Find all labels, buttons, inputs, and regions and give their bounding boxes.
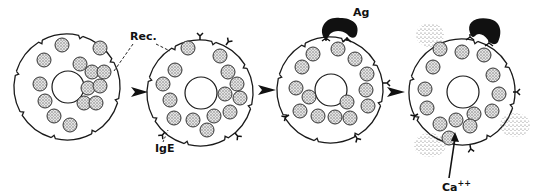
granule [73, 57, 87, 71]
ige-antibody-shape [513, 89, 520, 95]
ige-antibody [197, 33, 203, 40]
ige-label: IgE [155, 142, 174, 155]
granule [156, 77, 170, 91]
granule [89, 96, 103, 110]
granule [47, 109, 61, 123]
granule [63, 118, 77, 132]
granule [223, 105, 237, 119]
granule [207, 109, 221, 123]
ige-antibody [322, 38, 330, 41]
cell-stage-4 [409, 39, 515, 145]
granule [359, 83, 373, 97]
granule [163, 93, 177, 107]
granule [348, 52, 362, 66]
granule [340, 95, 354, 109]
ige-antibody-shape [233, 131, 242, 140]
receptor-annotation: Rec. [114, 30, 170, 71]
granule [492, 87, 506, 101]
ige-antibody [224, 38, 233, 47]
granule [289, 81, 303, 95]
granule [293, 104, 307, 118]
ige-antibody-shape [383, 80, 390, 86]
granule [295, 60, 309, 74]
granule [302, 90, 316, 104]
ige-antibody-shape [467, 144, 474, 152]
released-granule-contents [500, 113, 530, 137]
nucleus [447, 76, 479, 108]
granule [38, 94, 52, 108]
granule [218, 87, 232, 101]
granule [486, 68, 500, 82]
receptor-label: Rec. [130, 30, 157, 43]
ige-antibody [383, 80, 390, 86]
granule [230, 77, 244, 91]
granule [361, 99, 375, 113]
calcium-label: Ca++ [442, 179, 471, 194]
granule [233, 91, 247, 105]
granule [426, 60, 440, 74]
ige-antibody-shape [224, 38, 233, 47]
arrow-stage-3-to-4 [387, 87, 405, 97]
ige-antibody [513, 89, 520, 95]
ige-annotation: IgE [155, 130, 174, 155]
granule [213, 49, 227, 63]
granule [186, 113, 200, 127]
granule [311, 109, 325, 123]
released-granule-contents [414, 133, 446, 157]
diagram: Rec. IgE Ag Ca++ [0, 0, 539, 196]
cell-stage-1 [14, 34, 120, 140]
granule [360, 67, 374, 81]
granule [455, 45, 469, 59]
granule [168, 63, 182, 77]
granule [93, 79, 107, 93]
mast-cell-diagram: Rec. IgE Ag Ca++ [0, 0, 539, 196]
granule [221, 65, 235, 79]
granule [181, 41, 195, 55]
ige-antibody [233, 131, 242, 140]
granule [463, 119, 477, 133]
granule [477, 48, 491, 62]
receptor-leader-left [114, 44, 133, 71]
granule [328, 110, 342, 124]
arrow-stage-1-to-2 [131, 87, 148, 97]
granule [97, 65, 111, 79]
granule [93, 41, 107, 55]
granule [167, 111, 181, 125]
granule [420, 101, 434, 115]
antigen-blob [322, 18, 358, 39]
granule [33, 77, 47, 91]
granule [331, 42, 345, 56]
granule [433, 117, 447, 131]
arrow-stage-2-to-3 [258, 85, 276, 95]
released-granule-contents [416, 23, 444, 47]
granule [55, 38, 69, 52]
ige-antibody [467, 144, 474, 152]
granule [418, 82, 432, 96]
antigen-label: Ag [353, 6, 369, 19]
cell-stage-2 [147, 40, 253, 146]
ige-antibody [343, 37, 351, 42]
ige-antibody-shape [197, 33, 203, 40]
granule [200, 123, 214, 137]
granule [485, 104, 499, 118]
cell-stage-3 [277, 37, 383, 143]
nucleus [185, 77, 217, 109]
granule [449, 113, 463, 127]
granule [343, 111, 357, 125]
granule [306, 47, 320, 61]
granule [37, 53, 51, 67]
